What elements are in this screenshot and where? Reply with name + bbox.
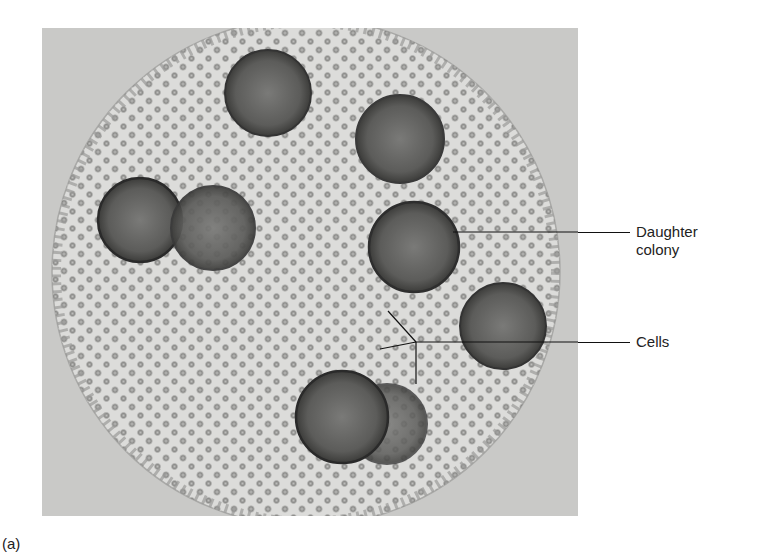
micrograph-svg	[42, 28, 578, 516]
daughter-colony-label-line2: colony	[636, 241, 698, 259]
volvox-micrograph	[42, 28, 578, 516]
figure-caption-letter: (a)	[2, 535, 20, 552]
cells-label: Cells	[636, 333, 669, 351]
daughter-colony-label-line1: Daughter	[636, 223, 698, 241]
daughter-colony-label: Daughter colony	[636, 223, 698, 259]
daughter-colony-leader	[578, 232, 630, 233]
cells-leader	[578, 342, 630, 343]
